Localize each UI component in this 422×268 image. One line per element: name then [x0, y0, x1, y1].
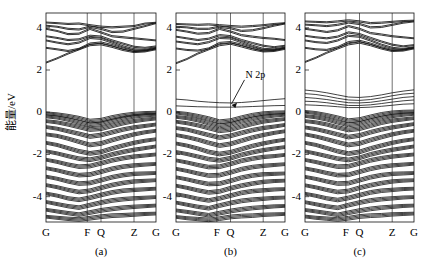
x-tick-label-q-2: Q: [352, 226, 368, 238]
x-tick-label-g-4: G: [406, 226, 422, 238]
x-tick-label-z-3: Z: [384, 226, 400, 238]
band-structure-figure: 能量/eV 420-2-4GFQZG(a) 420-2-4GFQZG(b)N 2…: [0, 0, 422, 268]
y-tick-label: 0: [279, 105, 301, 117]
y-tick-label: 2: [279, 63, 301, 75]
x-tick-label-g-0: G: [297, 226, 313, 238]
y-tick-label: 4: [279, 21, 301, 33]
subplot-caption-c: (c): [330, 245, 390, 257]
y-tick-label: -4: [279, 190, 301, 202]
y-tick-label: -2: [279, 147, 301, 159]
